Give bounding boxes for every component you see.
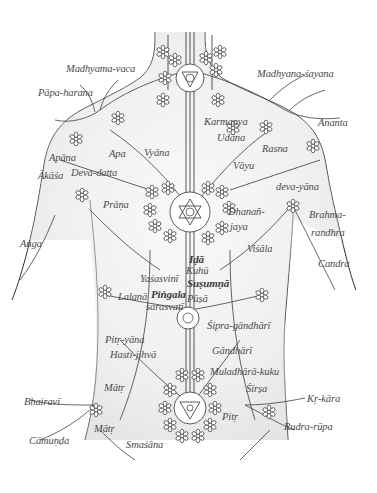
label-sirsa: Śīrṣa [246,384,267,395]
label-pitr-yana: Pitṛ-yāna [105,335,144,346]
label-pingala: Piṅgala [151,289,186,300]
label-hasti-jihva: Hasti-jihvā [110,350,156,361]
label-madhyama-vaca: Madhyama-vaca [66,64,135,75]
label-randhra: randhra [311,228,345,239]
label-prana: Prāṇa [103,200,129,211]
label-muladhara-kuku: Muladhārā-kuku [210,367,279,378]
label-rasna: Rasna [262,144,288,155]
nadi-diagram: Madhyama-vaca Madhyana-śayana Pāpa-haran… [0,0,377,493]
label-kr-kara: Kṛ-kāra [307,394,340,405]
label-camunda: Cāmuṇḍa [29,436,69,447]
label-rudra-rupa: Rudra-rūpa [284,422,333,433]
label-akasa: Ākāśa [38,171,63,182]
label-apana: Apāna [49,153,76,164]
label-susumna: Suṣumṇā [187,278,229,289]
label-visala: Viśāla [247,244,272,255]
label-gandhari: Gāndhārī [212,346,252,357]
label-smasana: Smaśāna [126,440,163,451]
label-ida: Iḍā [189,254,204,265]
label-karmanya: Karmanya [204,117,248,128]
label-ananta: Ananta [318,118,348,129]
label-sarasvati: sarasvatī [146,302,184,313]
label-vyana: Vyāna [144,148,169,159]
label-sipra-gandhari: Śipra-gāndhārī [207,321,270,332]
label-dhananjaya: Dhanañ- [228,207,265,218]
throat-chakra [176,64,204,92]
label-papa-harana: Pāpa-harana [38,88,93,99]
label-lalana: Lalanā [118,292,147,303]
label-deva-yana: deva-yāna [276,182,319,193]
label-jaya: jaya [230,222,248,233]
label-yasasvini: Yaśasvinī [140,274,178,285]
label-apa: Apa [109,149,126,160]
label-pusa: Pūṣā [187,294,208,305]
label-kuhu: Kuhū [186,266,208,277]
label-brahma: Brahma- [309,210,346,221]
label-madhyana-sayana: Madhyana-śayana [257,69,334,80]
label-matr-upper: Mātṛ [104,383,125,394]
label-pitr: Pitṛ [222,412,238,423]
root-chakra [174,392,206,424]
heart-chakra [170,192,210,232]
label-deva-datta: Deva-datta [71,168,117,179]
label-candra: Candra [318,259,350,270]
label-anga: Aṅga [20,239,42,250]
label-matr-lower: Mātṛ [94,424,115,435]
label-vayu: Vāyu [233,161,254,172]
label-udana: Udāna [217,133,245,144]
label-bhairavi: Bhairavī [24,397,60,408]
